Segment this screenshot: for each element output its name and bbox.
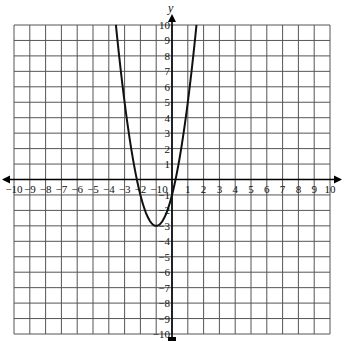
y-tick-label: 8 (165, 50, 171, 62)
x-tick-label: 4 (232, 183, 238, 195)
x-tick-label: −8 (40, 183, 52, 195)
x-tick-label: −5 (87, 183, 99, 195)
axes (2, 14, 342, 341)
y-tick-label: 2 (165, 143, 171, 155)
y-tick-label: −7 (158, 282, 170, 294)
x-tick-label: 1 (185, 183, 191, 195)
y-tick-label: −5 (158, 251, 170, 263)
y-tick-label: 1 (165, 158, 171, 170)
y-tick-label: 9 (165, 34, 171, 46)
y-tick-label: −3 (158, 220, 170, 232)
x-tick-label: −7 (56, 183, 68, 195)
y-tick-label: 10 (159, 19, 171, 31)
y-tick-label: 7 (165, 65, 171, 77)
y-tick-label: 5 (165, 96, 171, 108)
y-tick-label: 3 (165, 127, 171, 139)
x-tick-label: −4 (103, 183, 115, 195)
y-tick-label: −1 (158, 189, 170, 201)
y-tick-label: −10 (153, 328, 171, 340)
y-axis-label: y (167, 1, 174, 15)
x-tick-label: 7 (280, 183, 286, 195)
coordinate-plane: −10−9−8−7−6−5−4−3−2−1012345678910−10−9−8… (0, 0, 344, 341)
x-tick-label: −6 (71, 183, 83, 195)
y-tick-label: −8 (158, 297, 170, 309)
x-tick-label: 9 (311, 183, 317, 195)
y-tick-label: −9 (158, 313, 170, 325)
x-tick-label: 5 (248, 183, 254, 195)
x-tick-label: −10 (5, 183, 23, 195)
x-tick-label: 10 (325, 183, 337, 195)
y-tick-label: 4 (165, 112, 171, 124)
x-tick-label: 2 (201, 183, 207, 195)
x-tick-label: −9 (24, 183, 36, 195)
x-tick-label: −3 (119, 183, 131, 195)
y-tick-label: 6 (165, 81, 171, 93)
y-tick-label: −6 (158, 266, 170, 278)
x-tick-label: 6 (264, 183, 270, 195)
x-tick-label: 3 (217, 183, 223, 195)
x-tick-label: 8 (296, 183, 302, 195)
y-tick-label: −4 (158, 235, 170, 247)
